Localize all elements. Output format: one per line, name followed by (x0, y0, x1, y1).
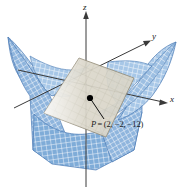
point-P-coordinates: (2, −2, −12) (104, 119, 144, 129)
axis-y-arrowhead (143, 41, 151, 47)
surface-diagram (0, 0, 181, 187)
point-P-marker (87, 95, 93, 101)
axis-label-y: y (152, 32, 156, 41)
axis-label-z: z (83, 3, 87, 12)
axis-x-arrowhead (159, 100, 168, 106)
figure-canvas: z y x P=(2, −2, −12) (0, 0, 181, 187)
axis-z-arrowhead (83, 11, 89, 19)
point-P-label: P=(2, −2, −12) (91, 119, 143, 129)
axis-label-x: x (170, 95, 174, 104)
point-P-symbol: P (91, 119, 96, 129)
point-P-equals: = (98, 119, 103, 129)
